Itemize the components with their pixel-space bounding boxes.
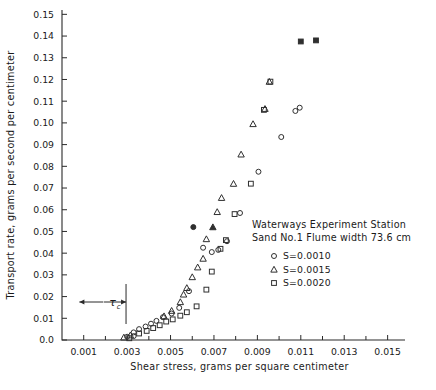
x-tick-label: 0.009 bbox=[244, 346, 271, 357]
data-point-square bbox=[204, 287, 209, 292]
data-point-circle bbox=[209, 250, 214, 255]
tau-arrowhead-right bbox=[121, 299, 126, 304]
y-tick-label: 0.15 bbox=[33, 9, 54, 20]
y-tick-label: 0.0 bbox=[39, 334, 54, 345]
y-axis-title: Transport rate, grams per second per cen… bbox=[5, 51, 16, 301]
data-point-triangle bbox=[168, 307, 174, 313]
y-tick-label: 0.05 bbox=[33, 226, 54, 237]
data-point-square bbox=[248, 181, 253, 186]
x-tick-label: 0.007 bbox=[201, 346, 228, 357]
scatter-chart: 0.00.010.020.030.040.050.060.070.080.090… bbox=[0, 0, 436, 390]
data-point-triangle bbox=[262, 106, 268, 112]
data-point-triangle bbox=[203, 236, 209, 242]
data-point-square bbox=[314, 38, 319, 43]
y-tick-label: 0.14 bbox=[33, 30, 54, 41]
data-point-triangle bbox=[121, 334, 127, 340]
data-point-circle bbox=[177, 305, 182, 310]
y-tick-label: 0.06 bbox=[33, 204, 54, 215]
x-tick-label: 0.015 bbox=[374, 346, 401, 357]
x-tick-label: 0.003 bbox=[114, 346, 141, 357]
y-tick-label: 0.08 bbox=[33, 161, 54, 172]
x-tick-label: 0.005 bbox=[157, 346, 184, 357]
y-tick-label: 0.09 bbox=[33, 139, 54, 150]
tau-arrowhead-left bbox=[79, 299, 84, 304]
data-point-square bbox=[178, 313, 183, 318]
y-tick-label: 0.01 bbox=[33, 313, 54, 324]
axis-lines bbox=[62, 10, 405, 340]
data-point-triangle bbox=[238, 151, 244, 157]
data-point-circle bbox=[256, 169, 261, 174]
legend-line-2: Sand No.1 Flume width 73.6 cm bbox=[252, 232, 411, 243]
legend-marker-square bbox=[272, 281, 277, 286]
y-tick-label: 0.11 bbox=[33, 96, 54, 107]
legend-marker-triangle bbox=[271, 266, 277, 272]
data-point-square bbox=[209, 269, 214, 274]
data-point-square bbox=[298, 39, 303, 44]
data-point-triangle bbox=[218, 195, 224, 201]
data-point-square bbox=[194, 304, 199, 309]
x-tick-label: 0.011 bbox=[287, 346, 314, 357]
legend-marker-circle bbox=[272, 254, 277, 259]
y-tick-label: 0.10 bbox=[33, 117, 54, 128]
data-point-square bbox=[164, 319, 169, 324]
data-point-circle bbox=[297, 105, 302, 110]
data-point-triangle bbox=[250, 121, 256, 127]
data-point-circle bbox=[201, 245, 206, 250]
data-point-triangle bbox=[180, 291, 186, 297]
data-point-triangle bbox=[230, 180, 236, 186]
y-tick-label: 0.02 bbox=[33, 291, 54, 302]
data-point-circle bbox=[279, 135, 284, 140]
data-point-square bbox=[184, 310, 189, 315]
x-tick-label: 0.013 bbox=[331, 346, 358, 357]
y-tick-label: 0.03 bbox=[33, 269, 54, 280]
data-point-circle bbox=[191, 225, 196, 230]
legend-label: S=0.0010 bbox=[283, 250, 331, 261]
x-axis-title: Shear stress, grams per square centimete… bbox=[130, 361, 348, 372]
data-point-square bbox=[170, 317, 175, 322]
data-point-triangle bbox=[200, 255, 206, 261]
data-point-triangle bbox=[214, 209, 220, 215]
chart-canvas: 0.00.010.020.030.040.050.060.070.080.090… bbox=[0, 0, 436, 390]
x-tick-label: 0.001 bbox=[70, 346, 97, 357]
data-point-triangle bbox=[210, 224, 216, 230]
y-tick-label: 0.04 bbox=[33, 248, 54, 259]
tau-label: τ bbox=[109, 296, 116, 309]
data-point-triangle bbox=[189, 274, 195, 280]
data-point-square bbox=[157, 323, 162, 328]
data-point-triangle bbox=[177, 299, 183, 305]
legend-label: S=0.0015 bbox=[283, 264, 331, 275]
y-tick-label: 0.12 bbox=[33, 74, 54, 85]
data-point-triangle bbox=[194, 264, 200, 270]
legend-line-1: Waterways Experiment Station bbox=[252, 219, 406, 230]
legend-label: S=0.0020 bbox=[283, 277, 331, 288]
tau-subscript: c bbox=[117, 303, 121, 311]
data-point-square bbox=[232, 212, 237, 217]
data-point-triangle bbox=[161, 313, 167, 319]
data-point-circle bbox=[238, 210, 243, 215]
y-tick-label: 0.13 bbox=[33, 52, 54, 63]
y-tick-label: 0.07 bbox=[33, 182, 54, 193]
